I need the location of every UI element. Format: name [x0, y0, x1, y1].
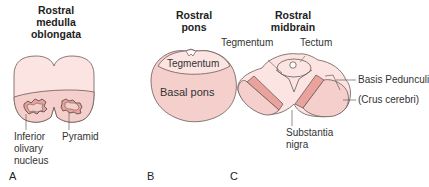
label-tectum: Tectum: [300, 37, 332, 49]
panel-c-title-line1: Rostral: [258, 9, 328, 21]
label-basis-pedunculi: Basis Pedunculi: [358, 74, 429, 86]
panel-a-title-line1: Rostral medulla: [18, 4, 94, 28]
panel-letter-c: C: [230, 170, 238, 182]
label-substantia-line1: Substantia: [286, 127, 333, 139]
panel-b-title-line1: Rostral: [164, 9, 224, 21]
panel-c-title-line2: midbrain: [258, 21, 328, 33]
label-pyramid: Pyramid: [62, 131, 99, 143]
panel-a-title-line2: oblongata: [18, 28, 94, 40]
panel-a-title: Rostral medulla oblongata: [18, 4, 94, 40]
panel-b-title-line2: pons: [164, 21, 224, 33]
panel-c-title: Rostral midbrain: [258, 9, 328, 33]
label-substantia-line2: nigra: [286, 139, 333, 151]
medulla-shape: [14, 56, 94, 130]
label-inferior-line1: Inferior: [14, 131, 48, 143]
label-inferior-line3: nucleus: [14, 155, 48, 167]
panel-letter-b: B: [147, 170, 154, 182]
panel-b-title: Rostral pons: [164, 9, 224, 33]
label-midbrain-tegmentum: Tegmentum: [221, 37, 273, 49]
midbrain-shape: [238, 54, 356, 126]
panel-letter-a: A: [9, 170, 16, 182]
label-basal-pons: Basal pons: [160, 86, 214, 98]
label-pons-tegmentum: Tegmentum: [167, 58, 219, 70]
label-inferior-olivary-nucleus: Inferior olivary nucleus: [14, 131, 48, 167]
label-substantia-nigra: Substantia nigra: [286, 127, 333, 151]
label-crus-cerebri: (Crus cerebri): [358, 94, 419, 106]
label-inferior-line2: olivary: [14, 143, 48, 155]
